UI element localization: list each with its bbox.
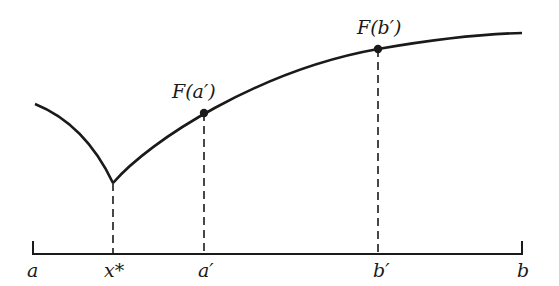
- label-b-prime: b′: [373, 261, 389, 280]
- label-a: a: [27, 261, 38, 280]
- curve-left-branch: [35, 104, 113, 183]
- label-a-prime: a′: [198, 261, 214, 280]
- curve-right-branch: [113, 33, 522, 183]
- diagram-canvas: [0, 0, 559, 286]
- label-b: b: [517, 261, 529, 280]
- label-f-b-prime: F(b′): [357, 18, 402, 37]
- label-x-star: x*: [104, 261, 124, 280]
- label-f-a-prime: F(a′): [172, 82, 216, 101]
- point-f-a-prime: [200, 109, 208, 117]
- point-f-b-prime: [374, 45, 382, 53]
